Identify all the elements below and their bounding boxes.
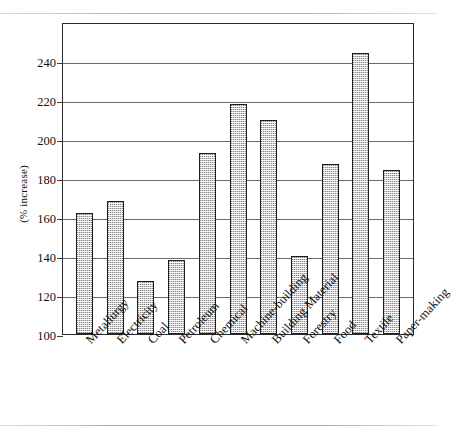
bar-slot bbox=[253, 24, 284, 334]
bar[interactable] bbox=[383, 170, 400, 334]
plot-frame: 100120140160180200220240 bbox=[62, 23, 414, 335]
bar-slot bbox=[376, 24, 407, 334]
bar-slot bbox=[130, 24, 161, 334]
y-axis-tick-label: 140 bbox=[37, 252, 63, 265]
bar-slot bbox=[161, 24, 192, 334]
bar[interactable] bbox=[168, 260, 185, 334]
bar-slot bbox=[100, 24, 131, 334]
y-axis-tick-label: 240 bbox=[37, 57, 63, 70]
bottom-divider-rule bbox=[0, 425, 437, 426]
y-axis-tick-label: 120 bbox=[37, 291, 63, 304]
bar[interactable] bbox=[352, 53, 369, 334]
y-axis-tick-label: 200 bbox=[37, 135, 63, 148]
bar-series bbox=[63, 24, 413, 334]
y-axis-title: (% increase) bbox=[17, 139, 29, 249]
bar-slot bbox=[346, 24, 377, 334]
bar-slot bbox=[223, 24, 254, 334]
y-axis-tick-label: 180 bbox=[37, 174, 63, 187]
bar-slot bbox=[192, 24, 223, 334]
y-axis-tick-label: 100 bbox=[37, 330, 63, 343]
y-axis-tick-label: 220 bbox=[37, 96, 63, 109]
y-axis-tick-label: 160 bbox=[37, 213, 63, 226]
x-axis-labels: MetallurgyElectricityCoalPetroleumChemic… bbox=[62, 337, 414, 433]
bar[interactable] bbox=[76, 213, 93, 334]
bar[interactable] bbox=[230, 104, 247, 334]
bar-slot bbox=[69, 24, 100, 334]
